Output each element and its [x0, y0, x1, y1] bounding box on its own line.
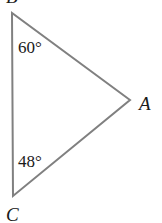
- vertex-label-a: A: [139, 94, 151, 113]
- angle-label-c: 48°: [18, 153, 42, 170]
- vertex-label-c: C: [6, 205, 19, 223]
- triangle-shape: [0, 0, 162, 223]
- vertex-label-b: B: [6, 0, 18, 6]
- geometry-figure: B C A 60° 48°: [0, 0, 162, 223]
- angle-label-b: 60°: [18, 39, 42, 56]
